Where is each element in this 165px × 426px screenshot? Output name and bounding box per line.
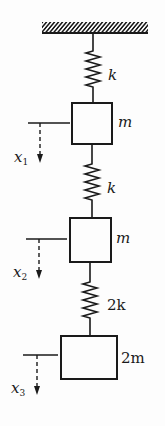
x1-label: x1 — [14, 148, 28, 167]
arrow-down-icon — [34, 386, 40, 395]
spring-3-label: 2k — [107, 296, 127, 314]
x3-coordinate-arrow — [23, 355, 58, 395]
spring-mass-diagram: k m x1 k m x2 2k 2m x3 — [0, 0, 165, 426]
spring-2 — [85, 144, 99, 217]
spring-1-label: k — [108, 66, 117, 84]
x2-coordinate-arrow — [26, 239, 67, 279]
spring-1 — [86, 33, 100, 103]
spring-2-label: k — [107, 179, 116, 197]
x2-label: x2 — [13, 263, 27, 282]
x1-coordinate-arrow — [28, 123, 70, 163]
mass-2-label: m — [116, 229, 130, 247]
arrow-down-icon — [37, 154, 43, 163]
x3-label: x3 — [11, 379, 25, 398]
mass-1 — [72, 103, 112, 144]
mass-1-label: m — [118, 113, 132, 131]
mass-3 — [61, 336, 117, 379]
mass-2 — [70, 218, 111, 262]
spring-3 — [83, 262, 97, 336]
arrow-down-icon — [36, 270, 42, 279]
mass-3-label: 2m — [121, 349, 145, 367]
ceiling-support — [42, 22, 148, 33]
hatch-icon — [42, 22, 148, 32]
